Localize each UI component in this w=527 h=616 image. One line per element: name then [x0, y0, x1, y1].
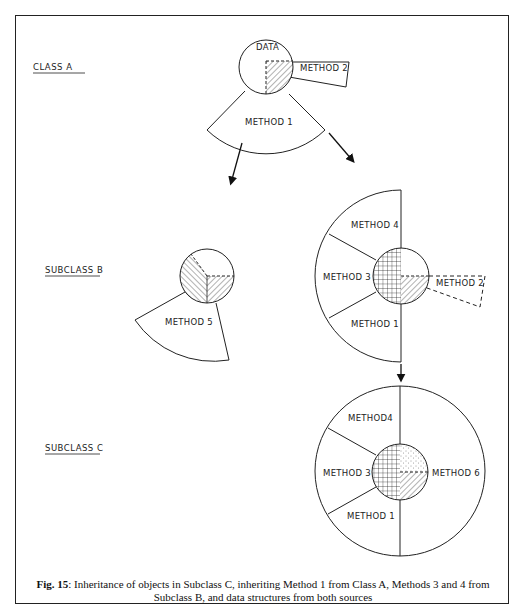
section-label-class-a: CLASS A — [33, 62, 85, 73]
subclass-b-method4-label: METHOD 4 — [351, 220, 399, 230]
section-label-subclass-c: SUBCLASS C — [45, 443, 103, 454]
class-a-data-label: DATA — [256, 42, 279, 52]
class-a-method1-label: METHOD 1 — [245, 117, 293, 127]
class-a-data-hatch — [266, 61, 294, 94]
subclass-b-left-object: METHOD 5 — [135, 249, 234, 361]
svg-text:SUBCLASS C: SUBCLASS C — [45, 443, 103, 453]
caption-text: : Inheritance of objects in Subclass C, … — [68, 578, 489, 603]
subclass-b-method5-label: METHOD 5 — [165, 317, 213, 327]
class-a-method2-label: METHOD 2 — [300, 63, 348, 73]
figure-caption: Fig. 15: Inheritance of objects in Subcl… — [30, 578, 496, 604]
svg-text:CLASS A: CLASS A — [33, 62, 73, 72]
subclass-c-method4-label: METHOD4 — [348, 413, 393, 423]
inheritance-diagram: CLASS A SUBCLASS B SUBCLASS C DATA METHO… — [0, 0, 527, 616]
arrow-to-subclass-b-right — [329, 133, 353, 161]
subclass-b-right-object: METHOD 4 METHOD 3 METHOD 1 METHOD 2 — [315, 190, 485, 362]
subclass-c-method6-label: METHOD 6 — [432, 468, 480, 478]
subclass-c-object: METHOD4 METHOD 3 METHOD 1 METHOD 6 — [315, 386, 485, 556]
section-label-subclass-b: SUBCLASS B — [45, 265, 103, 276]
subclass-c-method3-label: METHOD 3 — [323, 468, 371, 478]
subclass-b-method1-label: METHOD 1 — [351, 319, 399, 329]
class-a-object: DATA METHOD 2 METHOD 1 — [207, 40, 349, 154]
subclass-c-method1-label: METHOD 1 — [347, 511, 395, 521]
svg-text:SUBCLASS B: SUBCLASS B — [45, 265, 103, 275]
subclass-b-method3-label: METHOD 3 — [323, 272, 371, 282]
caption-label: Fig. 15 — [36, 578, 68, 590]
subclass-b-method2-label: METHOD 2 — [436, 278, 484, 288]
